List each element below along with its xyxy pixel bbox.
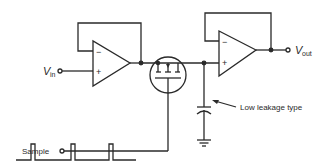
hold-capacitor [197, 63, 211, 140]
junction-dot [269, 48, 273, 52]
mosfet-switch [150, 57, 186, 151]
capacitor-note: Low leakage type [240, 103, 303, 112]
vout-terminal: V out [286, 44, 312, 57]
vout-subscript: out [302, 50, 312, 57]
vin-terminal: V in [43, 65, 62, 78]
vin-subscript: in [50, 71, 56, 78]
opamp2-minus-sign: − [222, 37, 227, 47]
opamp2-plus-sign: + [222, 58, 227, 68]
circuit-schematic: − + V in [0, 0, 326, 167]
opamp1-plus-sign: + [96, 67, 101, 77]
opamp1-minus-sign: − [96, 47, 101, 57]
capacitor-annotation-arrow [212, 100, 236, 107]
output-buffer-opamp: − + [205, 13, 286, 76]
sample-pulse-waveform [17, 156, 32, 159]
sample-input: Sample [22, 147, 168, 156]
sample-and-hold-diagram: − + V in [0, 0, 326, 167]
sample-label: Sample [22, 147, 50, 156]
ground-symbol [197, 140, 211, 146]
input-buffer-opamp: − + [62, 23, 141, 86]
